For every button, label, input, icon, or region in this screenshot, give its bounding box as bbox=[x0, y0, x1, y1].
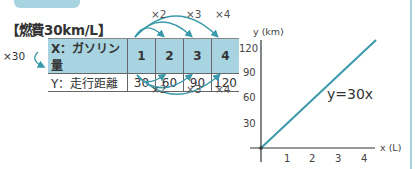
x-tick-3: 3 bbox=[335, 153, 341, 164]
line-graph bbox=[0, 0, 415, 169]
x-axis-label: x (L) bbox=[380, 142, 401, 153]
origin-point bbox=[259, 146, 263, 150]
x-tick-1: 1 bbox=[284, 153, 290, 164]
x-tick-4: 4 bbox=[361, 153, 367, 164]
y-tick-120: 120 bbox=[239, 43, 258, 54]
x-tick-2: 2 bbox=[309, 153, 315, 164]
y-tick-30: 30 bbox=[243, 118, 256, 129]
y-axis-label: y (km) bbox=[253, 26, 284, 37]
y-tick-60: 60 bbox=[243, 92, 256, 103]
equation-label: y=30x bbox=[327, 86, 373, 102]
y-tick-90: 90 bbox=[243, 67, 256, 78]
